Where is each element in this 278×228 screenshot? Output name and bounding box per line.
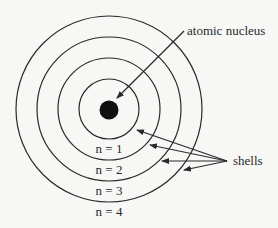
shells-label: shells — [233, 154, 263, 167]
bohr-diagram: atomic nucleus shells n = 1 n = 2 n = 3 … — [0, 0, 278, 228]
shell-label-2: n = 2 — [79, 163, 139, 176]
nucleus-arrow — [117, 31, 184, 98]
shell-label-3: n = 3 — [79, 184, 139, 197]
nucleus — [100, 101, 119, 120]
shell-label-4: n = 4 — [79, 205, 139, 218]
nucleus-label: atomic nucleus — [187, 24, 265, 37]
shell-arrow-4 — [184, 161, 227, 170]
shell-label-1: n = 1 — [79, 142, 139, 155]
